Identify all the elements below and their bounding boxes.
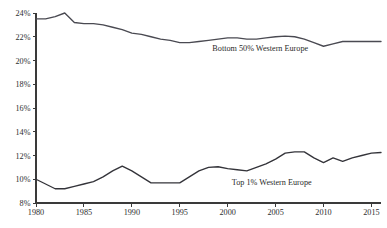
x-tick-label: 1985 [76,208,92,217]
series-line [36,152,381,189]
chart-container: 8%10%12%14%16%18%20%22%24% 1980198519901… [0,0,387,228]
y-axis-group: 8%10%12%14%16%18%20%22%24% [15,9,36,208]
y-tick-label: 14% [15,128,30,137]
y-tick-label: 20% [15,57,30,66]
series-label: Bottom 50% Western Europe [212,44,308,53]
y-tick-label: 8% [20,199,31,208]
x-axis-ticks: 19801985199019952000200520102015 [28,203,380,217]
y-tick-label: 22% [15,33,30,42]
series-line [36,13,381,46]
y-tick-label: 18% [15,80,30,89]
y-tick-label: 10% [15,175,30,184]
y-axis-ticks: 8%10%12%14%16%18%20%22%24% [15,9,36,208]
x-tick-label: 1995 [172,208,188,217]
series-lines [36,13,381,189]
series-label: Top 1% Western Europe [232,178,312,187]
x-tick-label: 2010 [315,208,331,217]
line-chart: 8%10%12%14%16%18%20%22%24% 1980198519901… [0,0,387,228]
x-tick-label: 2000 [219,208,235,217]
y-tick-label: 24% [15,9,30,18]
x-tick-label: 1990 [124,208,140,217]
x-tick-label: 2005 [267,208,283,217]
x-tick-label: 2015 [363,208,379,217]
y-tick-label: 12% [15,152,30,161]
y-tick-label: 16% [15,104,30,113]
x-axis-group: 19801985199019952000200520102015 [28,203,381,217]
x-tick-label: 1980 [28,208,44,217]
